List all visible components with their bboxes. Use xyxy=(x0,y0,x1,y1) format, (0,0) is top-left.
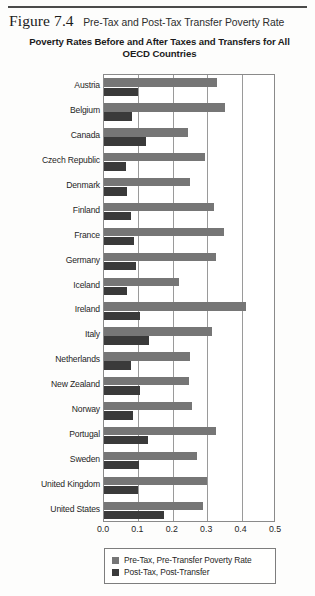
bar-group xyxy=(104,448,274,473)
figure-number: Figure 7.4 xyxy=(9,12,74,29)
category-label: United Kingdom xyxy=(4,479,100,489)
bar-post-tax xyxy=(104,486,138,494)
category-label: Iceland xyxy=(4,280,100,290)
category-label: Austria xyxy=(4,80,100,90)
bar-post-tax xyxy=(104,262,136,270)
legend-swatch-icon xyxy=(112,557,119,564)
bar-group xyxy=(104,299,274,324)
bar-group xyxy=(104,199,274,224)
bar-post-tax xyxy=(104,386,140,394)
category-label: France xyxy=(4,230,100,240)
bar-pre-tax xyxy=(104,103,225,111)
bar-group xyxy=(104,349,274,374)
bar-group xyxy=(104,274,274,299)
bar-pre-tax xyxy=(104,203,214,211)
chart-legend: Pre-Tax, Pre-Transfer Poverty RatePost-T… xyxy=(104,548,276,584)
figure-caption: Pre-Tax and Post-Tax Transfer Poverty Ra… xyxy=(83,17,284,28)
bar-group xyxy=(104,473,274,498)
category-label: Belgium xyxy=(4,105,100,115)
bar-pre-tax xyxy=(104,253,216,261)
bar-group xyxy=(104,125,274,150)
bar-post-tax xyxy=(104,187,127,195)
bar-post-tax xyxy=(104,287,127,295)
category-axis-labels: AustriaBelgiumCanadaCzech RepublicDenmar… xyxy=(0,74,100,522)
x-tick-label: 0.4 xyxy=(226,524,256,534)
bar-group xyxy=(104,498,274,523)
x-tick-label: 0.3 xyxy=(191,524,221,534)
bar-pre-tax xyxy=(104,228,224,236)
bar-post-tax xyxy=(104,336,149,344)
figure-panel: Figure 7.4 Pre-Tax and Post-Tax Transfer… xyxy=(0,0,315,596)
bar-post-tax xyxy=(104,511,164,519)
bar-group xyxy=(104,324,274,349)
bar-pre-tax xyxy=(104,502,203,510)
bar-post-tax xyxy=(104,137,146,145)
plot-area xyxy=(103,74,275,522)
x-tick-label: 0.0 xyxy=(88,524,118,534)
bar-post-tax xyxy=(104,312,140,320)
bar-group xyxy=(104,249,274,274)
bar-group xyxy=(104,75,274,100)
bar-post-tax xyxy=(104,411,133,419)
category-label: Denmark xyxy=(4,180,100,190)
category-label: Norway xyxy=(4,404,100,414)
x-tick-label: 0.5 xyxy=(260,524,290,534)
bar-pre-tax xyxy=(104,377,189,385)
bar-group xyxy=(104,224,274,249)
bar-pre-tax xyxy=(104,128,188,136)
bar-pre-tax xyxy=(104,178,190,186)
bar-post-tax xyxy=(104,436,148,444)
category-label: Italy xyxy=(4,329,100,339)
bar-group xyxy=(104,175,274,200)
category-label: New Zealand xyxy=(4,379,100,389)
x-tick-label: 0.2 xyxy=(157,524,187,534)
category-label: Czech Republic xyxy=(4,155,100,165)
legend-swatch-icon xyxy=(112,569,119,576)
chart-title: Poverty Rates Before and After Taxes and… xyxy=(22,36,297,60)
x-tick-label: 0.1 xyxy=(122,524,152,534)
legend-label: Pre-Tax, Pre-Transfer Poverty Rate xyxy=(124,555,252,565)
bar-group xyxy=(104,150,274,175)
legend-label: Post-Tax, Post-Transfer xyxy=(124,567,209,577)
category-label: Portugal xyxy=(4,429,100,439)
bar-group xyxy=(104,423,274,448)
bar-post-tax xyxy=(104,361,131,369)
bar-pre-tax xyxy=(104,78,217,86)
bar-pre-tax xyxy=(104,477,207,485)
category-label: Germany xyxy=(4,255,100,265)
category-label: Canada xyxy=(4,130,100,140)
bar-pre-tax xyxy=(104,352,190,360)
legend-item: Post-Tax, Post-Transfer xyxy=(112,566,268,578)
category-label: Sweden xyxy=(4,454,100,464)
bar-pre-tax xyxy=(104,427,216,435)
bar-post-tax xyxy=(104,88,138,96)
category-label: Finland xyxy=(4,205,100,215)
figure-rule xyxy=(8,6,307,8)
legend-item: Pre-Tax, Pre-Transfer Poverty Rate xyxy=(112,554,268,566)
bar-pre-tax xyxy=(104,302,246,310)
bar-pre-tax xyxy=(104,153,205,161)
bar-post-tax xyxy=(104,461,139,469)
bar-pre-tax xyxy=(104,452,197,460)
figure-header: Figure 7.4 Pre-Tax and Post-Tax Transfer… xyxy=(9,12,309,32)
bar-pre-tax xyxy=(104,402,192,410)
bar-group xyxy=(104,374,274,399)
bar-pre-tax xyxy=(104,327,212,335)
bar-post-tax xyxy=(104,212,131,220)
bar-post-tax xyxy=(104,237,134,245)
category-label: Ireland xyxy=(4,304,100,314)
x-axis-ticks: 0.00.10.20.30.40.5 xyxy=(103,524,275,538)
bar-post-tax xyxy=(104,112,132,120)
bar-group xyxy=(104,100,274,125)
category-label: United States xyxy=(4,504,100,514)
bar-group xyxy=(104,399,274,424)
category-label: Netherlands xyxy=(4,354,100,364)
bar-post-tax xyxy=(104,162,126,170)
bar-pre-tax xyxy=(104,278,179,286)
